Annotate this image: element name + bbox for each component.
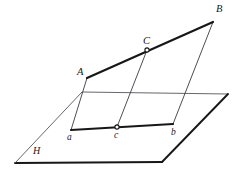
- point-c-marker: [115, 125, 119, 129]
- label-point-b: b: [171, 128, 176, 138]
- label-point-C: C: [143, 36, 150, 47]
- label-point-a: a: [67, 133, 72, 143]
- point-C-marker: [145, 48, 149, 52]
- label-point-A: A: [77, 67, 83, 78]
- segment-a-b: [71, 124, 173, 130]
- label-point-B: B: [216, 4, 222, 15]
- geometry-figure: A B C a b c H: [0, 0, 244, 179]
- plane-edge-bottom: [15, 162, 162, 163]
- segment-A-a: [71, 78, 87, 130]
- label-point-c: c: [114, 131, 118, 141]
- label-plane-H: H: [33, 146, 40, 156]
- plane-edge-top: [82, 92, 228, 94]
